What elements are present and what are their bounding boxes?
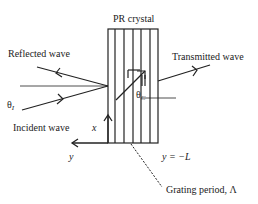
grating-period-label: Grating period, Λ	[166, 184, 238, 195]
incident-wave-label: Incident wave	[13, 122, 70, 133]
reflected-wave-label: Reflected wave	[8, 48, 70, 59]
transmitted-wave-ray	[158, 65, 210, 81]
theta-i-label: θI	[7, 99, 15, 112]
transmitted-wave-label: Transmitted wave	[172, 51, 244, 62]
crystal-title: PR crystal	[113, 13, 155, 24]
y-axis-label: y	[68, 151, 74, 162]
pr-crystal-diagram: PR crystal Reflected wave θI Incident wa…	[0, 0, 258, 204]
incident-wave-ray	[22, 86, 108, 110]
x-axis-label: x	[91, 122, 97, 133]
grating-pointer	[131, 144, 162, 187]
boundary-label: y = −L	[161, 151, 191, 162]
reflected-wave-ray	[37, 67, 108, 86]
crystal-box	[108, 29, 158, 143]
